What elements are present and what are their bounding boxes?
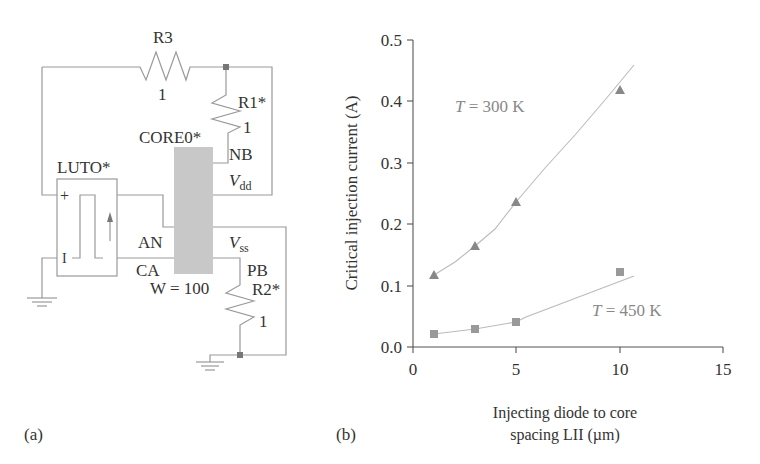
x-tick-labels: 0 5 10 15: [409, 360, 732, 379]
y-axis-label: Critical injection current (A): [342, 96, 361, 291]
annotation-450k: TT = 450 K = 450 K: [592, 301, 662, 320]
x-axis-label-line1: Injecting diode to core: [440, 402, 690, 424]
core-width-param: W = 100: [150, 279, 209, 298]
svg-text:0.3: 0.3: [381, 154, 402, 173]
r1-label: R1*: [238, 93, 266, 112]
nb-pin-label: NB: [229, 145, 253, 164]
figure-canvas: R3 1 R1* 1 CORE0* NB Vdd LUTO* + I AN Vs…: [0, 0, 760, 464]
luto-label: LUTO*: [57, 158, 111, 177]
vss-pin-label: Vss: [229, 233, 249, 255]
x-axis-label: Injecting diode to core spacing LII (µm): [440, 402, 690, 446]
svg-text:0.4: 0.4: [381, 92, 403, 111]
panel-b-label: (b): [336, 425, 356, 445]
square-marker: [471, 325, 479, 333]
annotation-300k: TT = 300 K = 300 K: [455, 97, 525, 116]
square-marker: [616, 268, 624, 276]
panel-a-label: (a): [24, 425, 43, 445]
arrow-up-icon: [107, 212, 113, 222]
svg-text:10: 10: [612, 360, 629, 379]
r2-label: R2*: [252, 280, 280, 299]
square-marker: [430, 330, 438, 338]
r1-value: 1: [243, 118, 252, 137]
an-pin-label: AN: [138, 233, 163, 252]
svg-text:0.2: 0.2: [381, 215, 402, 234]
triangle-marker: [429, 270, 439, 279]
svg-text:5: 5: [512, 360, 521, 379]
square-marker: [512, 318, 520, 326]
core-block: [174, 147, 213, 274]
node-dot: [237, 352, 243, 358]
pulse-icon: [72, 195, 103, 258]
plus-terminal: +: [60, 187, 69, 204]
y-tick-labels: 0.0 0.1 0.2 0.3 0.4 0.5: [381, 31, 403, 357]
svg-text:0.5: 0.5: [381, 31, 402, 50]
core-label: CORE0*: [139, 128, 201, 147]
r3-value: 1: [158, 85, 167, 104]
minus-terminal: I: [62, 251, 67, 266]
ca-pin-label: CA: [136, 261, 160, 280]
pb-pin-label: PB: [247, 261, 268, 280]
vdd-pin-label: Vdd: [229, 171, 251, 193]
svg-text:0: 0: [409, 360, 418, 379]
svg-text:15: 15: [715, 360, 732, 379]
svg-text:0.1: 0.1: [381, 277, 402, 296]
chart-axes: [407, 40, 723, 353]
r2-value: 1: [259, 312, 268, 331]
r3-label: R3: [153, 28, 173, 47]
svg-text:0.0: 0.0: [381, 338, 402, 357]
x-axis-label-line2: spacing LII (µm): [440, 424, 690, 446]
node-dot: [223, 64, 229, 70]
